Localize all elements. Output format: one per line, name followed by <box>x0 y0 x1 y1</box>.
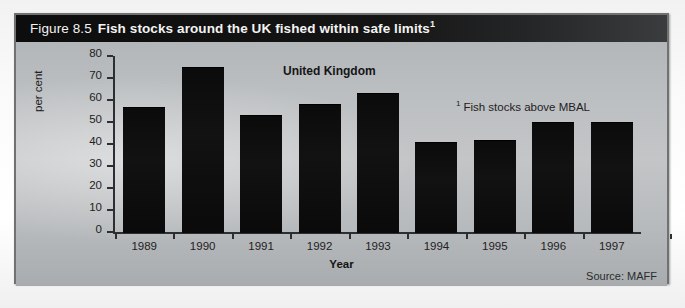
figure-header-text: Figure 8.5Fish stocks around the UK fish… <box>30 19 435 36</box>
y-tick-mark <box>107 77 113 79</box>
x-axis-title: Year <box>16 258 667 270</box>
y-tick: 80 <box>107 55 113 57</box>
annotation-footnote: 1Fish stocks above MBAL <box>456 99 590 113</box>
x-tick-label: 1997 <box>583 240 641 252</box>
y-tick: 20 <box>107 187 113 189</box>
x-tick-mark <box>290 234 292 239</box>
footnote-marker: 1 <box>456 99 460 108</box>
y-tick: 50 <box>107 121 113 123</box>
y-tick-label: 10 <box>89 201 102 213</box>
y-tick-label: 0 <box>96 223 102 235</box>
y-tick: 60 <box>107 99 113 101</box>
x-tick-mark <box>670 234 672 239</box>
bar <box>532 122 574 233</box>
x-tick-label: 1995 <box>466 240 524 252</box>
footnote-text: Fish stocks above MBAL <box>463 101 590 113</box>
y-tick-label: 50 <box>89 113 102 125</box>
x-tick-label: 1993 <box>349 240 407 252</box>
x-tick-mark <box>349 234 351 239</box>
figure-body: per cent 01020304050607080 1989199019911… <box>16 42 667 286</box>
figure-header: Figure 8.5Fish stocks around the UK fish… <box>16 15 667 42</box>
y-tick: 10 <box>107 209 113 211</box>
x-tick-label: 1996 <box>524 240 582 252</box>
y-tick-label: 80 <box>89 47 102 59</box>
y-tick-label: 20 <box>89 179 102 191</box>
figure-title: Fish stocks around the UK fished within … <box>98 21 430 36</box>
y-tick: 30 <box>107 165 113 167</box>
y-tick-mark <box>107 55 113 57</box>
x-tick-label: 1994 <box>407 240 465 252</box>
chart-plot-area: per cent 01020304050607080 1989199019911… <box>16 42 667 286</box>
y-axis-title: per cent <box>32 70 44 112</box>
figure-frame: Figure 8.5Fish stocks around the UK fish… <box>14 13 669 284</box>
y-tick-mark <box>107 231 113 233</box>
bar <box>182 67 224 233</box>
y-tick-mark <box>107 165 113 167</box>
x-tick-label: 1989 <box>115 240 173 252</box>
x-tick-mark <box>232 234 234 239</box>
title-footnote-marker: 1 <box>430 19 435 29</box>
bar <box>123 107 165 233</box>
y-tick-mark <box>107 187 113 189</box>
bar <box>415 142 457 233</box>
bar <box>474 140 516 233</box>
x-tick-label: 1991 <box>232 240 290 252</box>
y-tick-label: 30 <box>89 157 102 169</box>
bar <box>299 104 341 233</box>
figure-number: Figure 8.5 <box>30 21 92 36</box>
x-tick-mark <box>173 234 175 239</box>
y-axis-line <box>113 56 115 233</box>
figure-root: Figure 8.5Fish stocks around the UK fish… <box>0 0 685 308</box>
x-tick-mark <box>466 234 468 239</box>
y-tick-mark <box>107 121 113 123</box>
x-tick-mark <box>407 234 409 239</box>
source-label: Source: MAFF <box>586 270 657 282</box>
y-tick-label: 60 <box>89 91 102 103</box>
x-tick-label: 1992 <box>290 240 348 252</box>
x-tick-label: 1990 <box>173 240 231 252</box>
x-tick-mark <box>583 234 585 239</box>
bar <box>240 115 282 233</box>
y-tick: 70 <box>107 77 113 79</box>
y-tick-label: 40 <box>89 135 102 147</box>
x-tick-mark <box>524 234 526 239</box>
y-tick: 0 <box>107 231 113 233</box>
y-tick-mark <box>107 209 113 211</box>
y-tick-label: 70 <box>89 69 102 81</box>
y-tick-mark <box>107 143 113 145</box>
y-tick: 40 <box>107 143 113 145</box>
bar <box>591 122 633 233</box>
annotation-country: United Kingdom <box>283 64 376 78</box>
x-tick-mark <box>115 234 117 239</box>
bar <box>357 93 399 233</box>
y-tick-mark <box>107 99 113 101</box>
